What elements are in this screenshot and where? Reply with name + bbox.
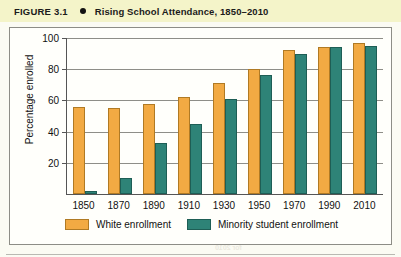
bar-group	[248, 38, 272, 194]
x-axis-tick-label: 1970	[278, 200, 310, 211]
figure-frame: Percentage enrolled 20406080100 18501870…	[9, 27, 392, 245]
bar-minority-1850[interactable]	[85, 191, 97, 194]
legend-label: Minority student enrollment	[218, 219, 338, 230]
bar-group	[73, 38, 97, 194]
chart-legend: White enrollmentMinority student enrollm…	[10, 219, 393, 230]
y-axis-label: Percentage enrolled	[24, 35, 35, 165]
x-axis-tick-label: 1950	[243, 200, 275, 211]
bar-minority-1870[interactable]	[120, 178, 132, 194]
y-axis-tick-label: 20	[48, 157, 59, 168]
legend-label: White enrollment	[96, 219, 171, 230]
bar-groups	[67, 38, 383, 194]
chart-area: Percentage enrolled 20406080100 18501870…	[10, 32, 393, 217]
x-axis-tick-label: 2010	[348, 200, 380, 211]
figure-title: Rising School Attendance, 1850–2010	[95, 6, 269, 17]
x-axis-tick-label: 1930	[208, 200, 240, 211]
bar-group	[108, 38, 132, 194]
y-axis-tick-label: 100	[42, 33, 59, 44]
legend-swatch-icon	[187, 219, 211, 230]
bar-white-1970[interactable]	[283, 50, 295, 194]
bar-white-2010[interactable]	[353, 43, 365, 194]
y-axis-tick-label: 40	[48, 126, 59, 137]
page-bleed-text: for 2010	[215, 244, 242, 251]
bar-group	[178, 38, 202, 194]
legend-item[interactable]: White enrollment	[65, 219, 171, 230]
x-axis-tick-label: 1990	[313, 200, 345, 211]
figure-header-band: FIGURE 3.1 Rising School Attendance, 185…	[0, 0, 401, 22]
scanned-page: cent Future E ten Futu and school from t…	[0, 0, 401, 257]
bar-white-1850[interactable]	[73, 107, 85, 194]
x-axis-tick-label: 1890	[138, 200, 170, 211]
bar-minority-1930[interactable]	[225, 99, 237, 194]
legend-swatch-icon	[65, 219, 89, 230]
bar-minority-1890[interactable]	[155, 143, 167, 194]
y-axis-tick-label: 80	[48, 64, 59, 75]
page-bottom-rule	[6, 254, 395, 255]
x-axis-tick-labels: 185018701890191019301950197019902010	[66, 200, 382, 211]
bar-minority-1910[interactable]	[190, 124, 202, 194]
plot-area: 20406080100	[66, 38, 383, 195]
bar-group	[143, 38, 167, 194]
bar-minority-2010[interactable]	[365, 46, 377, 194]
bar-white-1990[interactable]	[318, 47, 330, 194]
x-axis-tick-label: 1910	[173, 200, 205, 211]
bar-minority-1970[interactable]	[295, 54, 307, 194]
bar-group	[318, 38, 342, 194]
figure-number-label: FIGURE 3.1	[14, 6, 68, 17]
bar-white-1950[interactable]	[248, 69, 260, 194]
bar-group	[353, 38, 377, 194]
bar-group	[213, 38, 237, 194]
legend-item[interactable]: Minority student enrollment	[187, 219, 338, 230]
bullet-dot-icon	[80, 8, 86, 14]
x-axis-tick-label: 1870	[103, 200, 135, 211]
bar-white-1930[interactable]	[213, 83, 225, 194]
y-axis-tick-label: 60	[48, 95, 59, 106]
bar-white-1890[interactable]	[143, 104, 155, 194]
bar-group	[283, 38, 307, 194]
bar-white-1870[interactable]	[108, 108, 120, 194]
bar-minority-1950[interactable]	[260, 75, 272, 194]
x-axis-tick-label: 1850	[68, 200, 100, 211]
bar-white-1910[interactable]	[178, 97, 190, 194]
bar-minority-1990[interactable]	[330, 47, 342, 194]
